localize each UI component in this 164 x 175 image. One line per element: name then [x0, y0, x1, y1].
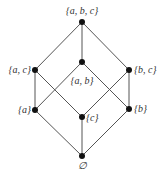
node-label-c: {c}	[86, 112, 98, 123]
node-label-b: {b}	[134, 103, 147, 114]
edge-abc-bc	[82, 22, 129, 70]
node-a	[32, 107, 38, 113]
node-label-ab: {a, b}	[71, 75, 94, 86]
node-ab	[79, 59, 85, 65]
node-label-ac: {a, c}	[9, 64, 31, 75]
edges-group	[35, 22, 129, 156]
node-ac	[32, 67, 38, 73]
node-abc	[79, 19, 85, 25]
edge-ab-a	[35, 62, 82, 110]
node-label-bc: {b, c}	[134, 64, 156, 75]
node-empty	[79, 153, 85, 159]
node-c	[79, 114, 85, 120]
node-label-a: {a}	[18, 104, 31, 115]
node-bc	[126, 67, 132, 73]
node-label-abc: {a, b, c}	[66, 5, 98, 16]
node-b	[126, 106, 132, 112]
edge-abc-ac	[35, 22, 82, 70]
edge-a-empty	[35, 110, 82, 156]
hasse-diagram: {a, b, c}{a, c}{a, b}{b, c}{a}{c}{b}∅	[0, 0, 164, 175]
node-label-empty: ∅	[78, 160, 88, 171]
